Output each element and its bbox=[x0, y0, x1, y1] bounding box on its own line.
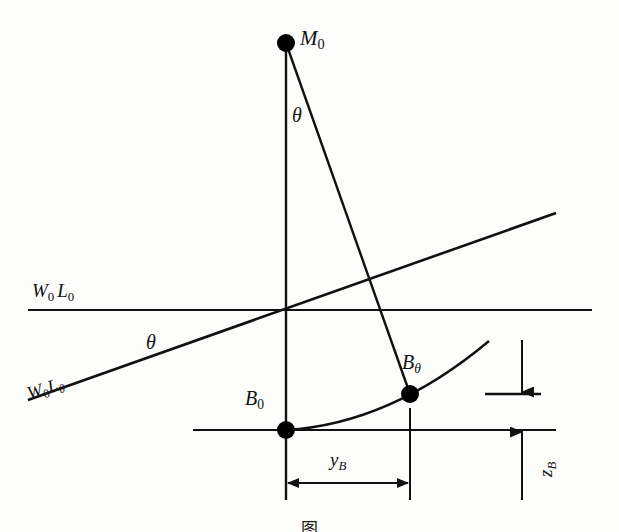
label-zb-sub: B bbox=[544, 462, 559, 470]
label-w0l0-w-sub: 0 bbox=[48, 289, 54, 304]
buoyancy-curve bbox=[286, 341, 489, 430]
label-btheta-base: B bbox=[402, 351, 414, 373]
waterline-heeled-line bbox=[28, 213, 556, 400]
label-metacentre-m0: M0 bbox=[300, 28, 325, 51]
label-w0l0-l: L bbox=[57, 280, 68, 301]
label-zb-base: z bbox=[535, 470, 556, 477]
label-m0-sub: 0 bbox=[318, 36, 325, 52]
label-b0-base: B bbox=[245, 387, 257, 409]
label-buoyancy-b0: B0 bbox=[245, 388, 264, 411]
label-angle-theta-top: θ bbox=[292, 105, 302, 125]
point-buoyancy-btheta bbox=[401, 385, 419, 403]
label-buoyancy-btheta: Bθ bbox=[402, 352, 421, 375]
label-horizontal-shift-yb: yB bbox=[330, 450, 346, 473]
label-b0-sub: 0 bbox=[257, 397, 264, 412]
stability-diagram-svg bbox=[0, 0, 619, 532]
label-w0l0-w: W bbox=[32, 280, 48, 301]
label-vertical-shift-zb: zB bbox=[536, 462, 559, 477]
label-angle-theta-waterline: θ bbox=[146, 332, 156, 352]
label-w0l0-l-sub: 0 bbox=[68, 289, 74, 304]
label-waterline-upright: W0L0 bbox=[32, 281, 74, 304]
label-yb-sub: B bbox=[338, 458, 346, 473]
label-btheta-sub: θ bbox=[414, 361, 421, 376]
point-metacentre-m0 bbox=[277, 34, 295, 52]
label-m0-base: M bbox=[300, 26, 318, 50]
metacentre-to-buoyancy-line bbox=[286, 43, 410, 394]
point-buoyancy-b0 bbox=[277, 421, 295, 439]
figure-caption: 图 bbox=[0, 515, 619, 532]
figure-canvas: M0 B0 Bθ W0L0 W0Lθ θ θ yB zB 图 bbox=[0, 0, 619, 532]
